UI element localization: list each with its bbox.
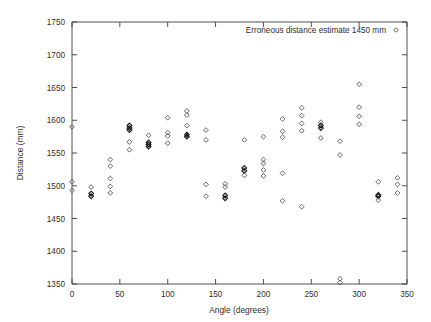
y-tick-label: 1600	[47, 116, 66, 125]
x-tick-label: 0	[70, 290, 75, 299]
y-tick-label: 1650	[47, 84, 66, 93]
x-tick-label: 100	[161, 290, 175, 299]
y-tick-label: 1700	[47, 51, 66, 60]
y-tick-label: 1350	[47, 280, 66, 289]
x-tick-label: 150	[209, 290, 223, 299]
y-tick-label: 1500	[47, 182, 66, 191]
scatter-plot-figure: 135014001450150015501600165017001750 050…	[0, 0, 431, 322]
x-tick-label: 50	[115, 290, 125, 299]
y-tick-label: 1450	[47, 215, 66, 224]
x-tick-label: 250	[304, 290, 318, 299]
chart-background	[0, 0, 431, 322]
y-tick-label: 1400	[47, 247, 66, 256]
y-tick-label: 1750	[47, 18, 66, 27]
x-tick-label: 200	[257, 290, 271, 299]
x-tick-label: 350	[400, 290, 414, 299]
chart-canvas: 135014001450150015501600165017001750 050…	[0, 0, 431, 322]
legend-label: Erroneous distance estimate 1450 mm	[246, 26, 386, 35]
x-axis-title: Angle (degrees)	[209, 305, 269, 315]
x-tick-label: 300	[352, 290, 366, 299]
y-tick-label: 1550	[47, 149, 66, 158]
y-axis-title: Distance (mm)	[15, 126, 25, 181]
